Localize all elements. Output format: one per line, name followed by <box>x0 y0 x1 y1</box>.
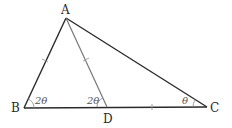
angle-arc-c <box>193 100 195 107</box>
label-c: C <box>210 101 219 115</box>
label-a: A <box>60 3 70 17</box>
angle-label-c: θ <box>182 95 188 106</box>
triangle-diagram: A B C D 2θ 2θ θ <box>0 0 232 128</box>
label-d: D <box>103 112 113 126</box>
side-bc <box>24 107 207 108</box>
label-b: B <box>11 101 20 115</box>
angle-label-b: 2θ <box>34 95 47 106</box>
angle-label-d: 2θ <box>86 95 99 106</box>
angle-arc-b <box>28 99 34 108</box>
